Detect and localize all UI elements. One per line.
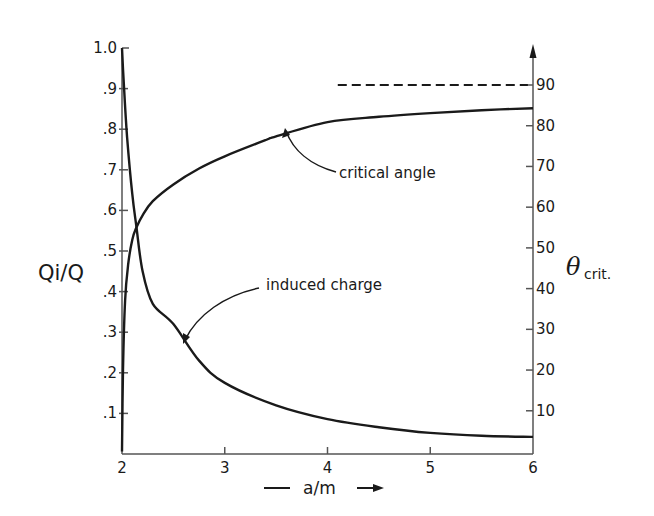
y-right-tick-label: 80 — [536, 117, 555, 135]
y-left-tick-label: .5 — [103, 242, 117, 260]
series-induced-charge — [122, 48, 533, 437]
y-left-tick-label: 1.0 — [93, 39, 117, 57]
chart: 23456.1.2.3.4.5.6.7.8.91.010203040506070… — [0, 0, 654, 516]
ticks: 23456.1.2.3.4.5.6.7.8.91.010203040506070… — [93, 39, 555, 477]
y-right-tick-label: 40 — [536, 280, 555, 298]
theta-symbol: θ — [566, 253, 581, 281]
critical-angle-pointer — [286, 131, 336, 172]
critical-angle-label: critical angle — [339, 164, 436, 182]
y-left-tick-label: .7 — [103, 161, 117, 179]
arrow-up-icon — [530, 44, 537, 58]
y-left-tick-label: .9 — [103, 80, 117, 98]
x-axis-title: a/m — [264, 478, 384, 498]
y-left-axis-title: Qi/Q — [38, 261, 84, 285]
y-left-tick-label: .4 — [103, 283, 117, 301]
x-tick-label: 5 — [425, 459, 435, 477]
y-left-tick-label: .2 — [103, 364, 117, 382]
y-right-tick-label: 50 — [536, 239, 555, 257]
induced-charge-label: induced charge — [266, 276, 382, 294]
arrow-right-icon — [373, 484, 384, 492]
curves — [122, 48, 533, 452]
y-left-tick-label: .6 — [103, 201, 117, 219]
theta-subscript: crit. — [584, 266, 611, 282]
x-title-text: a/m — [303, 478, 336, 498]
x-tick-label: 3 — [220, 459, 230, 477]
annotation-critical-angle: critical angle — [282, 128, 436, 182]
y-left-tick-label: .3 — [103, 323, 117, 341]
y-right-tick-label: 70 — [536, 157, 555, 175]
y-left-tick-label: .1 — [103, 404, 117, 422]
annotation-induced-charge: induced charge — [183, 276, 382, 344]
y-right-tick-label: 20 — [536, 361, 555, 379]
y-right-tick-label: 60 — [536, 198, 555, 216]
y-right-tick-label: 90 — [536, 76, 555, 94]
y-right-tick-label: 10 — [536, 402, 555, 420]
x-tick-label: 4 — [323, 459, 333, 477]
x-tick-label: 2 — [117, 459, 127, 477]
y-right-axis-title: θ crit. — [566, 253, 611, 282]
axes — [122, 44, 537, 454]
y-right-tick-label: 30 — [536, 320, 555, 338]
induced-charge-pointer — [185, 288, 259, 340]
x-tick-label: 6 — [528, 459, 538, 477]
y-left-tick-label: .8 — [103, 120, 117, 138]
